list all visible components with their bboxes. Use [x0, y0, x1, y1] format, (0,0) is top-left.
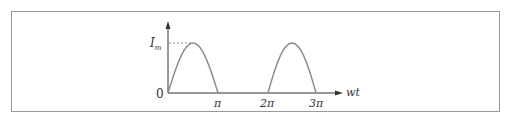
x-axis-label: wt — [346, 87, 360, 98]
half-wave-2 — [268, 43, 316, 93]
y-axis-arrow-icon — [166, 21, 171, 29]
tick-label-2pi: 2π — [260, 98, 274, 109]
half-wave-1 — [168, 43, 218, 93]
origin-label: 0 — [156, 88, 164, 100]
tick-label-3pi: 3π — [309, 98, 323, 109]
tick-label-pi: π — [214, 98, 221, 109]
waveform-plot — [0, 0, 510, 120]
y-axis-label: Im — [150, 37, 161, 52]
x-axis-arrow-icon — [335, 91, 343, 96]
